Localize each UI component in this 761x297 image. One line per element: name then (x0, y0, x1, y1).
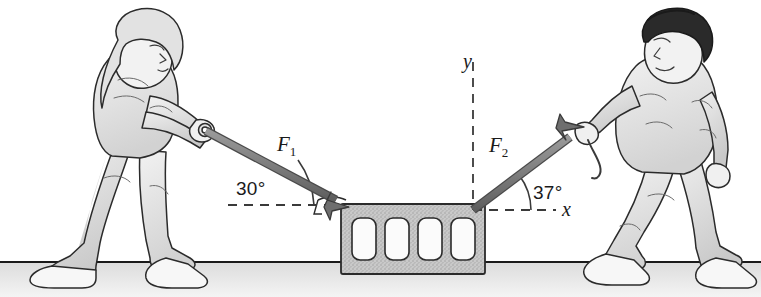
angle-label-37: 37° (533, 182, 563, 204)
woman-figure (30, 9, 214, 288)
axis-label-x: x (562, 198, 571, 221)
axis-label-y: y (463, 50, 472, 73)
man-figure (575, 8, 756, 288)
illustration-canvas (0, 0, 761, 297)
force-label-f2: F2 (489, 133, 508, 161)
angle-label-30: 30° (236, 178, 266, 200)
physics-force-diagram: F1 F2 30° 37° x y (0, 0, 761, 297)
angle-arc-37 (519, 175, 531, 210)
force-label-f1: F1 (277, 132, 296, 160)
